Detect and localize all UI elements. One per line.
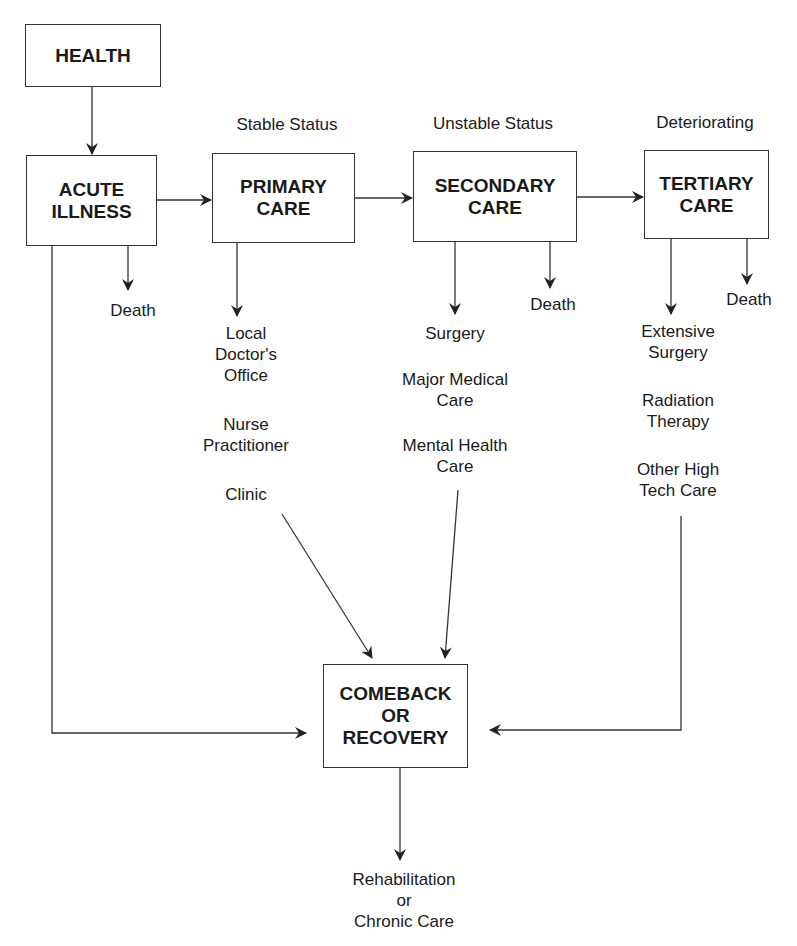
arrow-primary-to-recovery: [282, 514, 372, 658]
node-tertiary-care-label: TERTIARY CARE: [659, 173, 753, 217]
node-secondary-care-label: SECONDARY CARE: [435, 175, 556, 219]
node-health: HEALTH: [25, 24, 161, 87]
primary-option: Clinic: [225, 484, 267, 505]
secondary-option: Major Medical Care: [402, 369, 508, 411]
arrow-acute-to-recovery: [52, 245, 306, 733]
node-acute-illness-label: ACUTE ILLNESS: [51, 179, 131, 223]
secondary-option: Surgery: [425, 323, 485, 344]
tertiary-option: Other High Tech Care: [637, 459, 719, 501]
primary-option: Local Doctor's Office: [215, 323, 277, 386]
tertiary-option: Radiation Therapy: [642, 390, 714, 432]
node-tertiary-care: TERTIARY CARE: [644, 150, 769, 239]
node-recovery: COMEBACK OR RECOVERY: [323, 664, 468, 768]
arrow-secondary-to-recovery: [445, 490, 458, 658]
primary-option: Nurse Practitioner: [203, 414, 289, 456]
status-deteriorating: Deteriorating: [656, 112, 753, 133]
node-primary-care-label: PRIMARY CARE: [240, 176, 327, 220]
node-acute-illness: ACUTE ILLNESS: [26, 155, 157, 246]
status-stable: Stable Status: [236, 114, 337, 135]
node-health-label: HEALTH: [55, 45, 131, 67]
secondary-option: Mental Health Care: [403, 435, 508, 477]
outcome-death-acute: Death: [110, 300, 155, 321]
node-recovery-label: COMEBACK OR RECOVERY: [340, 683, 452, 749]
node-secondary-care: SECONDARY CARE: [413, 151, 577, 242]
outcome-death-tertiary: Death: [726, 289, 771, 310]
outcome-death-secondary: Death: [530, 294, 575, 315]
arrow-tertiary-to-recovery: [490, 516, 681, 730]
tertiary-option: Extensive Surgery: [641, 321, 715, 363]
final-outcome: Rehabilitation or Chronic Care: [352, 869, 455, 932]
status-unstable: Unstable Status: [433, 113, 553, 134]
node-primary-care: PRIMARY CARE: [212, 153, 355, 243]
